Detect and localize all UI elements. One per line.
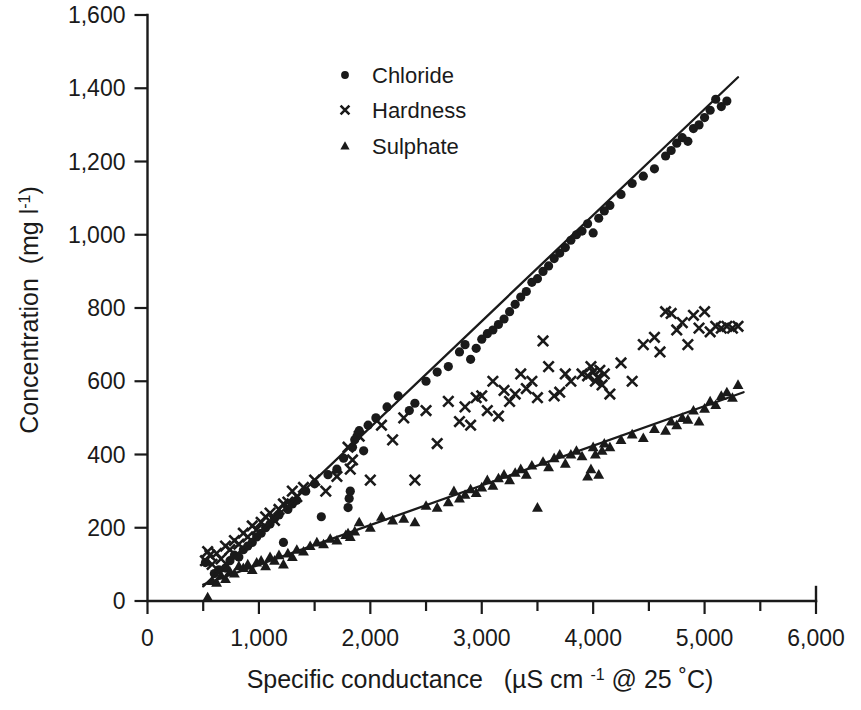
data-point-sulphate [278,559,289,569]
legend-item-hardness: Hardness [341,98,467,123]
data-point-sulphate [532,502,543,512]
data-point-hardness [387,435,397,445]
data-point-chloride [444,362,453,371]
data-point-hardness [683,339,693,349]
data-point-hardness [216,554,226,564]
x-tick-label: 6,000 [787,625,845,651]
data-point-hardness [460,402,470,412]
y-tick-label: 200 [87,515,125,541]
x-tick-label: 3,000 [453,625,511,651]
data-point-sulphate [593,469,604,479]
data-point-hardness [432,438,442,448]
y-tick-label: 1,000 [68,222,126,248]
chart-figure: 01,0002,0003,0004,0005,0006,000020040060… [0,0,861,710]
x-tick-label: 0 [141,625,154,651]
y-tick-label: 0 [113,588,126,614]
data-point-sulphate [721,387,732,397]
data-point-sulphate [202,592,213,602]
data-point-chloride [455,347,464,356]
data-point-chloride [589,228,598,237]
data-series [200,95,743,602]
x-tick-label: 1,000 [230,625,288,651]
data-point-hardness [365,475,375,485]
scatter-plot: 01,0002,0003,0004,0005,0006,000020040060… [0,0,861,710]
data-point-chloride [639,172,648,181]
y-tick-label: 1,400 [68,75,126,101]
data-point-hardness [465,420,475,430]
data-point-chloride [522,287,531,296]
data-point-hardness [347,455,357,465]
data-point-chloride [505,307,514,316]
data-point-hardness [532,393,542,403]
data-point-chloride [650,164,659,173]
legend-label: Hardness [372,98,466,123]
data-point-hardness [649,332,659,342]
data-point-hardness [516,369,526,379]
data-point-chloride [472,344,481,353]
data-point-sulphate [733,379,744,389]
data-point-sulphate [694,416,705,426]
data-point-hardness [510,389,520,399]
data-point-hardness [443,396,453,406]
data-point-chloride [533,274,542,283]
data-point-chloride [359,446,368,455]
data-point-hardness [499,385,509,395]
data-point-hardness [488,376,498,386]
data-point-hardness [699,306,709,316]
y-tick-label: 400 [87,442,125,468]
data-point-sulphate [340,141,349,149]
data-point-hardness [341,106,350,115]
legend-item-sulphate: Sulphate [340,134,458,159]
data-point-chloride [667,146,676,155]
data-point-chloride [433,367,442,376]
chart-legend: ChlorideHardnessSulphate [340,63,466,159]
data-point-hardness [321,486,331,496]
y-tick-label: 1,200 [68,149,126,175]
series-sulphate [202,379,743,601]
series-hardness [200,306,743,569]
data-point-sulphate [560,458,571,468]
data-point-chloride [511,300,520,309]
legend-item-chloride: Chloride [341,63,454,88]
data-point-hardness [638,339,648,349]
data-point-hardness [527,376,537,386]
data-point-chloride [346,487,355,496]
data-point-chloride [466,355,475,364]
data-point-hardness [677,317,687,327]
data-point-hardness [493,411,503,421]
data-point-hardness [482,405,492,415]
data-point-hardness [421,405,431,415]
legend-label: Chloride [372,63,454,88]
data-point-chloride [279,538,288,547]
x-axis-title: Specific conductance (µS cm -1 @ 25 ˚C) [247,665,714,693]
y-tick-label: 800 [87,295,125,321]
data-point-sulphate [409,517,420,527]
data-point-hardness [694,323,704,333]
data-point-chloride [410,399,419,408]
data-point-hardness [345,464,355,474]
data-point-hardness [399,413,409,423]
x-tick-label: 4,000 [564,625,622,651]
y-tick-label: 600 [87,368,125,394]
data-point-sulphate [354,517,365,527]
y-tick-label: 1,600 [68,2,126,28]
data-point-hardness [688,310,698,320]
data-point-sulphate [660,425,671,435]
data-point-hardness [566,376,576,386]
data-point-sulphate [586,464,597,474]
data-point-chloride [594,214,603,223]
data-point-chloride [683,137,692,146]
data-point-sulphate [638,432,649,442]
data-point-hardness [605,389,615,399]
data-point-chloride [722,96,731,105]
data-point-chloride [694,120,703,129]
y-axis-title: Concentration (mg l-1) [15,186,43,434]
data-point-chloride [341,71,349,79]
data-point-hardness [655,347,665,357]
x-tick-label: 5,000 [676,625,734,651]
data-point-chloride [317,512,326,521]
data-point-hardness [543,361,553,371]
axes [135,15,817,614]
fit-line-chloride [203,77,738,586]
data-point-chloride [700,113,709,122]
